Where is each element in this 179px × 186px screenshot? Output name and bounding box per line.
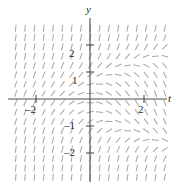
slope-mark: [98, 137, 101, 143]
slope-mark: [97, 128, 102, 133]
slope-mark: [155, 25, 157, 32]
slope-mark: [25, 155, 26, 162]
slope-mark: [42, 118, 45, 124]
slope-mark: [136, 174, 137, 181]
slope-mark: [33, 62, 35, 69]
slope-mark: [62, 34, 63, 41]
slope-mark: [116, 100, 121, 105]
slope-mark: [153, 63, 158, 68]
slope-mark: [161, 55, 168, 57]
slope-mark: [42, 72, 45, 79]
slope-mark: [60, 81, 64, 87]
slope-mark: [164, 109, 167, 116]
slope-mark: [117, 146, 120, 152]
slope-mark: [51, 109, 55, 115]
slope-mark: [154, 155, 157, 161]
slope-mark: [69, 110, 74, 115]
y-tick-label-2: 2: [69, 48, 75, 59]
slope-mark: [15, 43, 16, 50]
slope-mark: [152, 140, 159, 141]
slope-field-canvas: [0, 0, 179, 186]
slope-mark: [52, 43, 53, 50]
slope-mark: [127, 165, 128, 172]
slope-mark: [62, 146, 64, 153]
slope-mark: [78, 110, 84, 113]
slope-mark: [108, 146, 110, 153]
slope-mark: [127, 155, 129, 162]
slope-mark: [145, 90, 148, 96]
slope-mark: [51, 100, 55, 106]
slope-mark: [116, 53, 120, 59]
slope-mark: [135, 81, 139, 87]
slope-mark: [163, 156, 166, 162]
slope-mark: [43, 53, 45, 60]
slope-mark: [52, 155, 53, 162]
slope-mark: [24, 62, 26, 69]
slope-mark: [61, 53, 63, 60]
t-tick-label-2: 2: [138, 104, 144, 115]
slope-mark: [155, 165, 157, 172]
slope-mark: [70, 62, 73, 68]
slope-mark: [33, 127, 35, 134]
slope-mark: [99, 174, 100, 181]
t-axis-label: t: [168, 93, 171, 104]
slope-mark: [115, 120, 122, 122]
slope-mark: [145, 155, 147, 162]
slope-mark: [15, 146, 16, 153]
slope-mark: [33, 81, 36, 87]
slope-mark: [62, 155, 63, 162]
slope-mark: [42, 100, 45, 106]
slope-mark: [145, 165, 147, 172]
t-tick-label-minus-2: –2: [25, 104, 36, 115]
slope-mark: [106, 92, 112, 96]
slope-mark: [116, 91, 121, 96]
slope-mark: [43, 146, 44, 153]
slope-mark: [33, 72, 35, 79]
slope-mark: [144, 81, 147, 87]
slope-mark: [96, 73, 102, 76]
slope-mark: [162, 147, 168, 151]
slope-mark: [69, 101, 75, 105]
slope-mark: [61, 72, 64, 78]
slope-mark: [108, 174, 109, 181]
slope-mark: [51, 118, 54, 124]
slope-mark: [99, 44, 101, 51]
slope-mark: [117, 155, 119, 162]
slope-mark: [143, 139, 150, 141]
slope-mark: [163, 118, 166, 124]
slope-mark: [99, 155, 101, 162]
slope-mark: [106, 83, 113, 86]
slope-mark: [125, 100, 129, 106]
slope-mark: [15, 165, 16, 172]
slope-mark: [25, 25, 26, 32]
slope-mark: [52, 146, 53, 153]
slope-mark: [107, 137, 111, 143]
slope-mark: [116, 137, 120, 143]
slope-mark: [99, 165, 100, 172]
slope-mark: [115, 64, 121, 67]
slope-mark: [43, 34, 44, 41]
slope-mark: [135, 146, 138, 152]
slope-mark: [153, 128, 158, 133]
slope-mark: [155, 174, 156, 181]
slope-mark: [52, 127, 54, 134]
slope-mark: [118, 174, 119, 181]
slope-mark: [78, 82, 84, 86]
slope-mark: [25, 43, 26, 50]
slope-mark: [99, 146, 101, 153]
slope-mark: [43, 165, 44, 172]
slope-mark: [52, 137, 54, 144]
slope-mark: [43, 25, 44, 32]
slope-mark: [144, 44, 148, 50]
slope-mark: [24, 53, 25, 60]
slope-mark: [146, 174, 147, 181]
slope-mark: [162, 139, 168, 142]
slope-mark: [125, 109, 130, 114]
slope-mark: [80, 43, 82, 50]
slope-mark: [15, 71, 17, 78]
slope-mark: [136, 25, 137, 32]
slope-mark: [15, 137, 16, 144]
slope-mark: [143, 129, 149, 133]
slope-mark: [106, 129, 112, 133]
slope-mark: [71, 165, 72, 172]
